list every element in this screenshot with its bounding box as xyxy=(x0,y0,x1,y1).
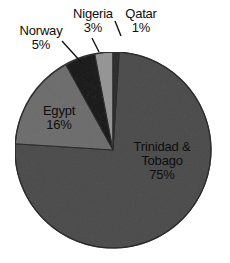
pie-label-egypt-value: 16% xyxy=(28,118,90,132)
pie-label-nigeria-name: Nigeria xyxy=(73,6,113,21)
pie-chart-figure: Norway 5% Nigeria 3% Qatar 1% Egypt 16% … xyxy=(0,0,230,263)
pie-label-norway-name: Norway xyxy=(20,23,63,38)
pie-label-nigeria: Nigeria 3% xyxy=(66,7,120,34)
pie-label-norway: Norway 5% xyxy=(10,24,72,51)
pie-label-egypt: Egypt 16% xyxy=(28,104,90,131)
pie-label-qatar-value: 1% xyxy=(118,21,164,35)
pie-label-trinidad-name2: Tobago xyxy=(124,154,200,168)
pie-label-qatar: Qatar 1% xyxy=(118,7,164,34)
leader-line-nigeria xyxy=(92,38,99,52)
pie-label-nigeria-value: 3% xyxy=(66,21,120,35)
pie-label-qatar-name: Qatar xyxy=(125,6,157,21)
pie-label-norway-value: 5% xyxy=(10,38,72,52)
pie-label-trinidad-name: Trinidad & xyxy=(134,139,191,154)
pie-label-egypt-name: Egypt xyxy=(43,103,75,118)
pie-label-trinidad-value: 75% xyxy=(124,168,200,182)
pie-label-trinidad-tobago: Trinidad & Tobago 75% xyxy=(124,140,200,182)
